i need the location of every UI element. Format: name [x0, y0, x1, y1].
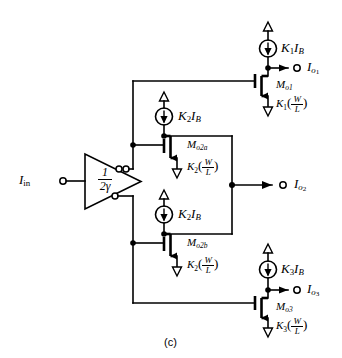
ratio-label-top: K1(WL): [276, 95, 307, 115]
node-dot-lower: [130, 240, 136, 246]
io2-current-arrow: [262, 181, 272, 189]
circuit-figure: Iin 1 2γ K1IB Io1 Mo1 K1(WL) K2IB Mo2a K…: [0, 0, 342, 358]
current-source-top-arrowhead: [264, 48, 271, 56]
supply-arrow-top: [264, 22, 273, 31]
source-label-bottom: K3IB: [281, 262, 304, 277]
input-label: Iin: [19, 173, 30, 188]
input-terminal-circle[interactable]: [60, 178, 66, 184]
gain-numerator: 1: [98, 166, 113, 180]
io2-terminal-circle[interactable]: [280, 182, 286, 188]
amplifier-gain-label: 1 2γ: [92, 166, 118, 192]
device-label-mo1: Mo1: [276, 79, 293, 92]
current-source-mid-lower-arrowhead: [160, 214, 167, 222]
ground-arrow-mid-lower: [173, 267, 182, 276]
ground-arrow-top: [264, 107, 273, 116]
node-dot-upper: [130, 142, 136, 148]
io1-terminal-circle[interactable]: [294, 65, 300, 71]
ground-arrow-mid-upper: [173, 169, 182, 178]
supply-arrow-mid-upper: [160, 92, 169, 101]
source-label-mid-upper: K2IB: [178, 109, 201, 124]
source-label-top: K1IB: [281, 41, 304, 56]
device-label-mo2a: Mo2a: [187, 139, 207, 152]
io1-current-arrow: [279, 64, 288, 71]
supply-arrow-bottom: [264, 244, 273, 253]
branch-mid-lower: [156, 190, 182, 276]
input-net: [60, 178, 85, 184]
ratio-label-mid-lower: K2(WL): [187, 256, 218, 276]
supply-arrow-mid-lower: [160, 190, 169, 199]
amplifier-output-bubble-b: [123, 166, 129, 172]
device-label-mo2b: Mo2b: [187, 237, 207, 250]
ratio-label-bottom: K3(WL): [276, 317, 307, 337]
figure-caption: (c): [164, 336, 177, 348]
output-label-io2: Io2: [294, 177, 306, 193]
output-label-io1: Io1: [307, 60, 319, 76]
amplifier-output-bubble-c: [112, 193, 118, 199]
ratio-label-mid-upper: K2(WL): [187, 158, 218, 178]
ground-arrow-bottom: [264, 328, 273, 337]
io3-terminal-circle[interactable]: [294, 287, 300, 293]
io3-current-arrow: [279, 286, 288, 293]
current-source-bottom-arrowhead: [264, 269, 271, 277]
source-label-mid-lower: K2IB: [178, 207, 201, 222]
current-source-mid-upper-arrowhead: [160, 116, 167, 124]
gain-denominator: 2γ: [98, 180, 113, 193]
device-label-mo3: Mo3: [276, 301, 293, 314]
branch-mid-upper: [156, 92, 182, 178]
output-label-io3: Io3: [307, 282, 319, 298]
